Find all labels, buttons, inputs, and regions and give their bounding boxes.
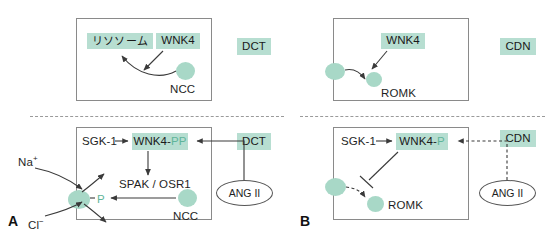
ncc-channel-blob-a-top bbox=[176, 62, 195, 80]
segment-badge-cdn-bottom: CDN bbox=[500, 130, 536, 147]
segment-badge-dct-top: DCT bbox=[237, 38, 271, 55]
divider-left bbox=[30, 116, 284, 117]
figure-root: リソソーム WNK4 NCC DCT WNK4 ROMK CDN SGK-1 W… bbox=[0, 0, 548, 245]
wnk4-pp-phospho-text: PP bbox=[171, 136, 187, 148]
divider-right bbox=[300, 116, 545, 117]
panel-letter-a: A bbox=[8, 213, 18, 229]
lysosome-label-a-top: リソソーム bbox=[87, 33, 153, 49]
wnk4-label-a-top: WNK4 bbox=[156, 33, 200, 49]
romk-label-b-top: ROMK bbox=[381, 88, 416, 100]
ang2-ellipse-b-bottom: ANG II bbox=[479, 180, 536, 206]
segment-badge-dct-bottom: DCT bbox=[237, 133, 271, 150]
phospho-label-a-bottom: P bbox=[97, 194, 105, 206]
ang2-ellipse-a-bottom: ANG II bbox=[216, 180, 273, 206]
wnk4-label-b-top: WNK4 bbox=[381, 33, 425, 49]
chloride-ion-label-a-bottom: Cl− bbox=[28, 218, 44, 231]
romk-label-b-bottom: ROMK bbox=[388, 200, 423, 212]
segment-badge-cdn-top: CDN bbox=[500, 38, 536, 55]
romk-channel-blob-b-top bbox=[366, 72, 382, 87]
ncc-channel-blob-a-bottom bbox=[178, 189, 197, 207]
sodium-charge: + bbox=[33, 154, 38, 163]
wnk4-pp-badge-a-bottom: WNK4-PP bbox=[132, 133, 188, 150]
wnk4-p-badge-b-bottom: WNK4-P bbox=[396, 133, 448, 150]
chloride-symbol: Cl bbox=[28, 219, 39, 231]
romk-channel-blob-b-bottom bbox=[367, 196, 384, 212]
wnk4-pp-base-text: WNK4- bbox=[133, 136, 171, 148]
chloride-charge: − bbox=[39, 217, 44, 226]
ncc-label-a-top: NCC bbox=[170, 84, 195, 96]
basolateral-blob-b-top bbox=[325, 63, 345, 80]
nacl-cotransporter-blob-a-bottom bbox=[68, 190, 90, 209]
panel-letter-b: B bbox=[300, 213, 310, 229]
sgk1-label-a-bottom: SGK-1 bbox=[82, 136, 117, 148]
sodium-ion-label-a-bottom: Na+ bbox=[18, 155, 38, 168]
arrow-sodium-influx-a-bottom bbox=[35, 168, 82, 189]
spak-osr1-label-a-bottom: SPAK / OSR1 bbox=[119, 179, 191, 191]
wnk4-p-base-text: WNK4- bbox=[399, 136, 437, 148]
sgk1-label-b-bottom: SGK-1 bbox=[341, 136, 376, 148]
wnk4-p-phospho-text: P bbox=[437, 136, 445, 148]
sodium-symbol: Na bbox=[18, 156, 33, 168]
basolateral-blob-b-bottom bbox=[325, 178, 346, 196]
ncc-label-a-bottom: NCC bbox=[173, 211, 198, 223]
